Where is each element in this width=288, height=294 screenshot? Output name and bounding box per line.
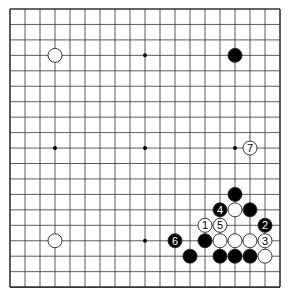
white-stone-move-1: 1 [198,218,212,232]
black-stone [213,249,227,263]
move-number: 1 [202,219,208,231]
black-stone-move-6: 6 [168,234,182,248]
black-stone [228,249,242,263]
white-stone [228,203,242,217]
white-stone-move-5: 5 [213,218,227,232]
go-board: 7415263 [0,0,288,294]
star-point [143,53,147,57]
move-number: 6 [172,235,178,247]
move-number: 3 [262,235,268,247]
white-stone-move-3: 3 [258,234,272,248]
white-stone [228,234,242,248]
star-point [233,146,237,150]
white-stone [243,234,257,248]
star-point [143,239,147,243]
black-stone [198,234,212,248]
black-stone [243,203,257,217]
move-number: 4 [217,204,223,216]
move-number: 2 [262,219,268,231]
move-number: 7 [247,142,253,154]
white-stone [213,234,227,248]
black-stone [228,48,242,62]
white-stone [48,234,62,248]
black-stone-move-4: 4 [213,203,227,217]
black-stone [243,249,257,263]
white-stone [48,48,62,62]
white-stone-move-7: 7 [243,141,257,155]
move-number: 5 [217,219,223,231]
star-point [143,146,147,150]
star-point [53,146,57,150]
white-stone [258,249,272,263]
black-stone [183,249,197,263]
black-stone-move-2: 2 [258,218,272,232]
black-stone [228,187,242,201]
